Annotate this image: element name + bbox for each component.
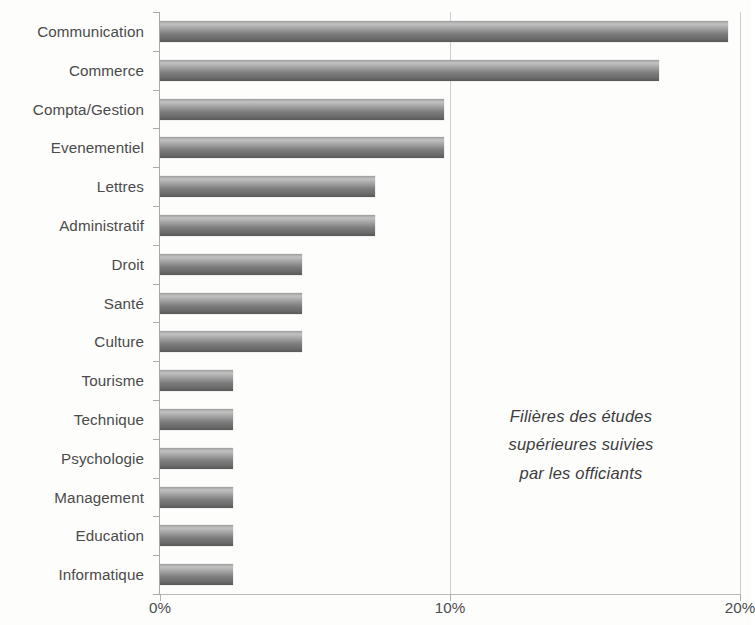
- y-axis-tick: [153, 128, 160, 129]
- bar: [160, 525, 233, 546]
- y-axis-tick: [153, 361, 160, 362]
- category-label: Management: [0, 490, 144, 505]
- category-label: Commerce: [0, 63, 144, 78]
- bar: [160, 137, 444, 158]
- annotation-line: par les officiants: [448, 459, 714, 487]
- category-axis-labels: Communication Commerce Compta/Gestion Ev…: [0, 12, 152, 594]
- gridline: [450, 12, 451, 596]
- bar: [160, 215, 375, 236]
- bar: [160, 564, 233, 585]
- y-axis-tick: [153, 400, 160, 401]
- bar: [160, 448, 233, 469]
- y-axis-tick: [153, 555, 160, 556]
- y-axis-tick: [153, 478, 160, 479]
- category-label: Technique: [0, 412, 144, 427]
- category-label: Santé: [0, 296, 144, 311]
- annotation-line: Filières des études: [448, 402, 714, 430]
- bar: [160, 370, 233, 391]
- plot-area: [160, 12, 740, 594]
- bar: [160, 176, 375, 197]
- category-label: Tourisme: [0, 373, 144, 388]
- category-label: Communication: [0, 24, 144, 39]
- y-axis-tick: [153, 167, 160, 168]
- bar: [160, 331, 302, 352]
- category-label: Psychologie: [0, 451, 144, 466]
- bar: [160, 99, 444, 120]
- y-axis-tick: [153, 12, 160, 13]
- y-axis-tick: [153, 439, 160, 440]
- bar: [160, 487, 233, 508]
- x-axis-tick-label: 20%: [725, 600, 755, 615]
- y-axis-tick: [153, 245, 160, 246]
- y-axis-tick: [153, 206, 160, 207]
- gridline: [740, 12, 741, 596]
- bar: [160, 60, 659, 81]
- bar: [160, 21, 728, 42]
- category-label: Administratif: [0, 218, 144, 233]
- bar: [160, 293, 302, 314]
- y-axis-tick: [153, 284, 160, 285]
- y-axis-tick: [153, 594, 160, 595]
- y-axis-tick: [153, 51, 160, 52]
- y-axis-tick: [153, 322, 160, 323]
- category-label: Informatique: [0, 567, 144, 582]
- x-axis-tick-label: 0%: [149, 600, 171, 615]
- category-label: Education: [0, 528, 144, 543]
- bar: [160, 409, 233, 430]
- x-axis-tick-label: 10%: [435, 600, 465, 615]
- y-axis-tick: [153, 516, 160, 517]
- category-label: Compta/Gestion: [0, 102, 144, 117]
- category-label: Culture: [0, 334, 144, 349]
- annotation-line: supérieures suivies: [448, 430, 714, 458]
- category-label: Evenementiel: [0, 140, 144, 155]
- chart-annotation: Filières des études supérieures suivies …: [448, 402, 714, 487]
- category-label: Droit: [0, 257, 144, 272]
- y-axis-tick: [153, 90, 160, 91]
- bar: [160, 254, 302, 275]
- category-label: Lettres: [0, 179, 144, 194]
